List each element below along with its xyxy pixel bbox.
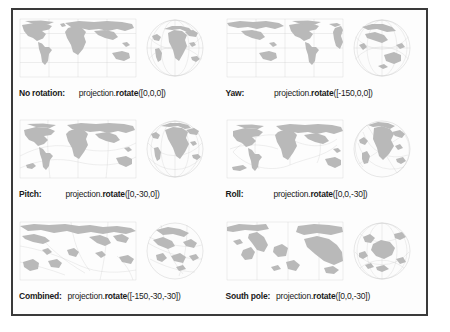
panel-figures — [19, 115, 217, 183]
globe-no-rotation — [141, 14, 209, 82]
panel-combined: Combined: projection.rotate([-150,-30,-3… — [13, 213, 220, 314]
panel-figures — [226, 115, 424, 183]
caption-label: Yaw: — [226, 88, 245, 98]
globe-combined — [141, 217, 209, 285]
caption-code: projection.rotate([-150,0,0]) — [274, 88, 373, 98]
panel-roll: Roll: projection.rotate([0,0,-30]) — [220, 111, 427, 212]
panel-figures — [19, 217, 217, 285]
globe-yaw — [348, 14, 416, 82]
panel-yaw: Yaw: projection.rotate([-150,0,0]) — [220, 10, 427, 111]
caption-code: projection.rotate([0,0,-30]) — [276, 291, 370, 301]
caption-label: No rotation: — [19, 88, 65, 98]
globe-pitch — [141, 115, 209, 183]
caption-code: projection.rotate([0,0,0]) — [79, 88, 166, 98]
caption-code: projection.rotate([0,0,-30]) — [273, 189, 367, 199]
panel-figures — [19, 14, 217, 82]
map-no-rotation — [19, 16, 137, 80]
caption-label: Combined: — [19, 291, 62, 301]
map-pitch — [19, 117, 137, 181]
panel-figures — [226, 14, 424, 82]
caption-south-pole: South pole: projection.rotate([0,0,-30]) — [226, 291, 424, 301]
map-yaw — [226, 16, 344, 80]
globe-roll — [348, 115, 416, 183]
globe-south-pole — [348, 217, 416, 285]
caption-yaw: Yaw: projection.rotate([-150,0,0]) — [226, 88, 424, 98]
caption-label: Pitch: — [19, 189, 41, 199]
caption-code: projection.rotate([-150,-30,-30]) — [68, 291, 181, 301]
map-roll — [226, 117, 344, 181]
panel-figures — [226, 217, 424, 285]
caption-code: projection.rotate([0,-30,0]) — [65, 189, 159, 199]
figure-container: No rotation: projection.rotate([0,0,0]) — [11, 8, 428, 316]
caption-no-rotation: No rotation: projection.rotate([0,0,0]) — [19, 88, 217, 98]
panel-no-rotation: No rotation: projection.rotate([0,0,0]) — [13, 10, 220, 111]
panel-grid: No rotation: projection.rotate([0,0,0]) — [13, 10, 426, 314]
map-combined — [19, 219, 137, 283]
map-south-pole — [226, 219, 344, 283]
caption-pitch: Pitch: projection.rotate([0,-30,0]) — [19, 189, 217, 199]
caption-label: South pole: — [226, 291, 271, 301]
caption-roll: Roll: projection.rotate([0,0,-30]) — [226, 189, 424, 199]
caption-label: Roll: — [226, 189, 244, 199]
panel-south-pole: South pole: projection.rotate([0,0,-30]) — [220, 213, 427, 314]
caption-combined: Combined: projection.rotate([-150,-30,-3… — [19, 291, 217, 301]
panel-pitch: Pitch: projection.rotate([0,-30,0]) — [13, 111, 220, 212]
